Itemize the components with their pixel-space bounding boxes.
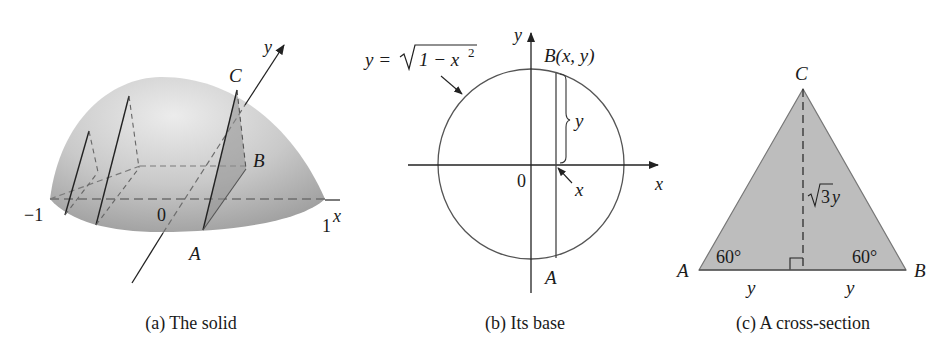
panel-cross-section: C A B 60° 60° 3 y y y <box>675 63 926 298</box>
brace <box>560 74 570 163</box>
height-var: y <box>830 187 840 207</box>
base-right-y: y <box>844 277 855 298</box>
equation-radicand: 1 − x <box>419 49 460 70</box>
x-marker-label: x <box>574 179 584 200</box>
y-axis-front <box>132 233 163 283</box>
caption-base: (b) Its base <box>485 313 565 334</box>
height-radicand: 3 <box>821 187 830 207</box>
cs-a-label: A <box>675 260 689 281</box>
solid-neg-one-label: −1 <box>24 205 43 225</box>
solid-b-label: B <box>253 150 265 171</box>
base-origin-label: 0 <box>517 171 526 191</box>
cs-b-label: B <box>914 260 926 281</box>
panel-solid: y C B A x 0 −1 1 <box>24 37 341 283</box>
x-pointer <box>558 168 572 183</box>
equation-exponent: 2 <box>468 45 475 60</box>
curve-pointer <box>441 76 462 94</box>
solid-a-label: A <box>187 243 201 264</box>
solid-one-label: 1 <box>322 216 331 236</box>
base-y-label: y <box>512 25 522 45</box>
solid-c-label: C <box>229 65 242 86</box>
panel-base: y = 1 − x 2 y B(x, y) y 0 x x A <box>363 25 663 293</box>
solid-origin-label: 0 <box>157 205 166 225</box>
caption-cross-section: (c) A cross-section <box>736 313 870 334</box>
solid-y-label: y <box>262 37 272 57</box>
point-a-label: A <box>543 267 557 288</box>
base-x-label: x <box>654 174 663 194</box>
solid-x-label: x <box>332 206 341 226</box>
angle-right-label: 60° <box>852 247 877 267</box>
base-left-y: y <box>745 277 756 298</box>
angle-left-label: 60° <box>716 247 741 267</box>
cs-c-label: C <box>795 63 808 84</box>
brace-y-label: y <box>573 110 584 131</box>
equation-lhs: y = <box>363 49 391 70</box>
point-b-label: B(x, y) <box>544 45 595 67</box>
dome-surface <box>50 77 325 232</box>
caption-solid: (a) The solid <box>145 313 237 334</box>
figure-canvas: y C B A x 0 −1 1 y = 1 − x 2 y B(x, y) y… <box>0 0 948 364</box>
